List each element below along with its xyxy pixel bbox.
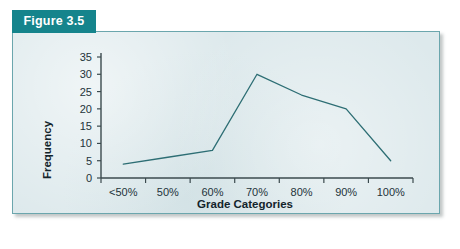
y-tick-label: 35 xyxy=(80,51,92,63)
y-tick-label: 10 xyxy=(80,137,92,149)
x-tick-label: 100% xyxy=(377,186,405,198)
chart-canvas: Frequency 05101520253035 <50%50%60%70%80… xyxy=(13,32,440,214)
figure-panel: Frequency 05101520253035 <50%50%60%70%80… xyxy=(12,31,440,214)
figure-number-tab: Figure 3.5 xyxy=(12,10,96,33)
x-tick-label: 80% xyxy=(291,186,313,198)
x-tick-label: 90% xyxy=(335,186,357,198)
figure-number-label: Figure 3.5 xyxy=(23,15,84,28)
x-tick-label: 60% xyxy=(201,186,223,198)
x-axis-title: Grade Categories xyxy=(197,198,293,210)
x-tick-label: <50% xyxy=(109,186,138,198)
data-series-frequency xyxy=(123,74,390,164)
x-tick-label: 70% xyxy=(246,186,268,198)
y-tick-label: 30 xyxy=(80,68,92,80)
y-tick-label: 0 xyxy=(86,172,92,184)
y-tick-label: 20 xyxy=(80,103,92,115)
line-chart: Frequency 05101520253035 <50%50%60%70%80… xyxy=(13,32,439,213)
y-tick-label: 15 xyxy=(80,120,92,132)
y-axis-title: Frequency xyxy=(41,120,53,179)
x-tick-label: 50% xyxy=(157,186,179,198)
y-axis-ticks: 05101520253035 xyxy=(80,51,101,184)
y-tick-label: 25 xyxy=(80,86,92,98)
x-axis-ticks: <50%50%60%70%80%90%100% xyxy=(101,178,413,198)
y-tick-label: 5 xyxy=(86,155,92,167)
